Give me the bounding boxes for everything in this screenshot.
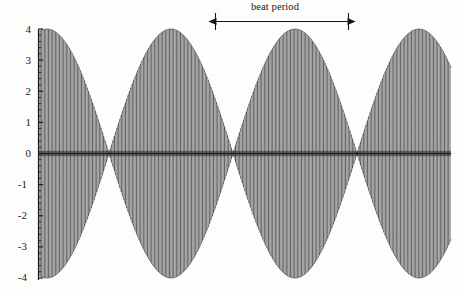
y-tick-label-2: 2 bbox=[13, 86, 31, 97]
y-tick-label-4: 4 bbox=[13, 24, 31, 35]
waveform-axis-ink-band bbox=[39, 151, 452, 156]
y-tick-label-0: 0 bbox=[13, 148, 31, 159]
waveform-lower-envelope bbox=[39, 154, 452, 279]
y-tick-label-m1: -1 bbox=[9, 179, 27, 190]
y-tick-label-m4: -4 bbox=[9, 272, 27, 283]
y-tick-label-m3: -3 bbox=[9, 241, 27, 252]
waveform-upper-envelope bbox=[39, 29, 452, 154]
beat-period-label: beat period bbox=[251, 1, 299, 12]
y-tick-label-m2: -2 bbox=[9, 210, 27, 221]
waveform-plot bbox=[0, 0, 463, 295]
beat-period-annotation bbox=[216, 13, 349, 30]
y-tick-label-3: 3 bbox=[13, 55, 31, 66]
beats-waveform-figure: 4 3 2 1 0 -1 -2 -3 -4 beat period bbox=[0, 0, 463, 295]
waveform-traces bbox=[39, 29, 452, 278]
y-tick-label-1: 1 bbox=[13, 117, 31, 128]
